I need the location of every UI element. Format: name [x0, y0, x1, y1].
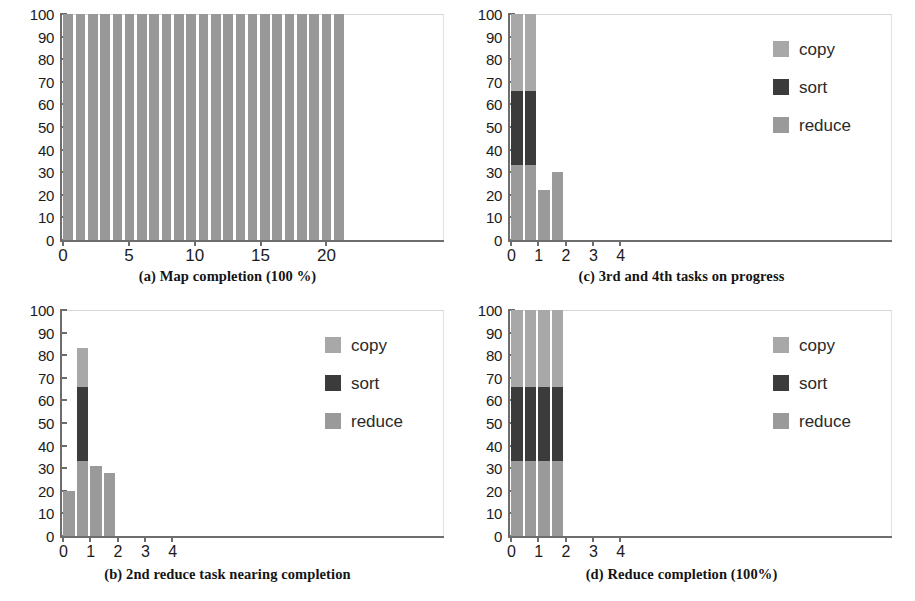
- bar[interactable]: [90, 310, 102, 536]
- chart-panel-b: 010203040506070809010001234 copy sort re…: [0, 296, 455, 601]
- legend-item-reduce[interactable]: reduce: [773, 412, 851, 430]
- legend-item-copy[interactable]: copy: [773, 40, 835, 58]
- bar-segment-map: [88, 14, 98, 240]
- x-tick-label: 0: [507, 543, 515, 560]
- y-tick-label: 40: [486, 438, 502, 453]
- bar-segment-copy: [552, 310, 564, 387]
- bar-segment-map: [186, 14, 196, 240]
- bar[interactable]: [525, 310, 537, 536]
- x-tick-mark: [592, 536, 594, 542]
- y-tick-label: 30: [38, 461, 54, 476]
- legend-item-sort[interactable]: sort: [773, 78, 827, 96]
- chart-panel-d: 010203040506070809010001234 copy sort re…: [448, 296, 915, 601]
- y-tick-label: 100: [30, 7, 54, 22]
- bar[interactable]: [511, 14, 523, 240]
- legend-label-reduce: reduce: [351, 413, 403, 430]
- bar[interactable]: [236, 14, 246, 240]
- bar-segment-map: [236, 14, 246, 240]
- y-tick-label: 80: [38, 348, 54, 363]
- bar[interactable]: [162, 14, 172, 240]
- bar[interactable]: [309, 14, 319, 240]
- y-tick-label: 80: [38, 52, 54, 67]
- bar[interactable]: [538, 14, 550, 240]
- x-tick-label: 5: [124, 247, 133, 264]
- y-tick-label: 40: [486, 142, 502, 157]
- bar[interactable]: [63, 310, 75, 536]
- bar[interactable]: [211, 14, 221, 240]
- bar[interactable]: [334, 14, 344, 240]
- bar[interactable]: [538, 310, 550, 536]
- legend-swatch-sort: [773, 375, 789, 391]
- y-tick-label: 60: [486, 97, 502, 112]
- y-tick-label: 20: [38, 187, 54, 202]
- bar[interactable]: [511, 310, 523, 536]
- bar-segment-map: [76, 14, 86, 240]
- legend-item-copy[interactable]: copy: [325, 336, 387, 354]
- bar[interactable]: [248, 14, 258, 240]
- bar[interactable]: [285, 14, 295, 240]
- bar[interactable]: [199, 14, 209, 240]
- bar-segment-map: [149, 14, 159, 240]
- bar[interactable]: [322, 14, 332, 240]
- bar[interactable]: [76, 14, 86, 240]
- bar[interactable]: [552, 310, 564, 536]
- bar[interactable]: [552, 14, 564, 240]
- x-tick-mark: [619, 240, 621, 246]
- legend-item-reduce[interactable]: reduce: [325, 412, 403, 430]
- bar[interactable]: [137, 14, 147, 240]
- y-tick-label: 0: [494, 233, 502, 248]
- x-tick-label: 0: [58, 247, 67, 264]
- bar[interactable]: [223, 14, 233, 240]
- y-tick-label: 70: [38, 370, 54, 385]
- y-tick-label: 100: [30, 303, 54, 318]
- bar[interactable]: [88, 14, 98, 240]
- y-tick-label: 90: [486, 325, 502, 340]
- x-tick-mark: [171, 536, 173, 542]
- bar-segment-reduce: [538, 190, 550, 240]
- bar-segment-map: [125, 14, 135, 240]
- x-tick-mark: [565, 536, 567, 542]
- y-axis-tick-labels: 0102030405060708090100: [14, 14, 54, 240]
- x-tick-label: 1: [534, 247, 542, 264]
- y-tick-label: 30: [38, 165, 54, 180]
- x-tick-mark: [537, 536, 539, 542]
- bar[interactable]: [186, 14, 196, 240]
- y-tick-label: 10: [486, 506, 502, 521]
- legend-swatch-reduce: [773, 413, 789, 429]
- legend-item-sort[interactable]: sort: [325, 374, 379, 392]
- x-tick-label: 2: [562, 247, 570, 264]
- y-tick-label: 70: [486, 74, 502, 89]
- bar[interactable]: [525, 14, 537, 240]
- bar-segment-map: [174, 14, 184, 240]
- bar[interactable]: [77, 310, 89, 536]
- bar[interactable]: [104, 310, 116, 536]
- bar[interactable]: [125, 14, 135, 240]
- legend-swatch-sort: [773, 79, 789, 95]
- legend-swatch-sort: [325, 375, 341, 391]
- bar-segment-map: [334, 14, 344, 240]
- bar-segment-map: [199, 14, 209, 240]
- legend-item-reduce[interactable]: reduce: [773, 116, 851, 134]
- bar-segment-reduce: [552, 461, 564, 536]
- x-tick-label: 1: [86, 543, 94, 560]
- y-tick-label: 80: [486, 348, 502, 363]
- bar[interactable]: [63, 14, 73, 240]
- bar[interactable]: [174, 14, 184, 240]
- bar[interactable]: [113, 14, 123, 240]
- bar[interactable]: [272, 14, 282, 240]
- legend-item-sort[interactable]: sort: [773, 374, 827, 392]
- y-axis-tick-labels: 0102030405060708090100: [462, 14, 502, 240]
- bar-segment-reduce: [511, 165, 523, 240]
- bar-segment-copy: [511, 310, 523, 387]
- bar[interactable]: [297, 14, 307, 240]
- y-tick-label: 50: [486, 120, 502, 135]
- bar-segment-copy: [525, 310, 537, 387]
- y-tick-label: 50: [38, 120, 54, 135]
- bar[interactable]: [100, 14, 110, 240]
- y-tick-label: 60: [486, 393, 502, 408]
- legend-item-copy[interactable]: copy: [773, 336, 835, 354]
- bar[interactable]: [149, 14, 159, 240]
- legend-label-copy: copy: [351, 337, 387, 354]
- bar[interactable]: [260, 14, 270, 240]
- y-tick-label: 80: [486, 52, 502, 67]
